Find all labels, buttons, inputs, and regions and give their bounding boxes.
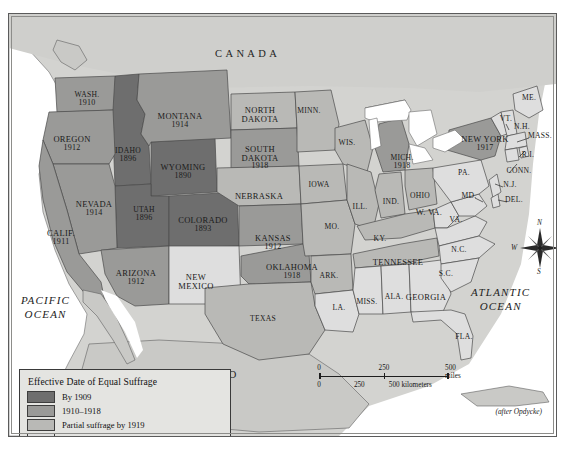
legend-item: By 1909 [27,391,223,403]
state-name: CONN. [479,167,557,175]
map-credit: (after Opdycke) [495,407,542,416]
state-name: S.C. [406,270,486,278]
state-label: KY. [340,235,420,243]
state-label: KANSAS1912 [233,234,313,251]
ocean-pacific-line2: OCEAN [25,308,67,320]
state-name: MINN. [269,107,349,115]
country-label-canada: CANADA [215,48,280,59]
state-label: ME. [489,94,557,102]
ocean-pacific-line1: PACIFIC [21,294,70,306]
scale-bar: 0250500 miles 0250500 kilometers [319,364,449,390]
state-label: COLORADO1893 [163,216,243,233]
legend-title: Effective Date of Equal Suffrage [28,376,223,387]
state-label: FLA. [424,333,504,341]
state-name: VA. [416,216,496,224]
state-name: NEBRASKA [219,192,299,201]
state-label: MASS. [500,132,557,140]
state-label: N.J. [470,181,550,189]
state-label: VA. [416,216,496,224]
state-label: WASH.1910 [47,91,127,107]
state-label: MONTANA1914 [140,112,220,129]
legend-swatch [27,405,55,417]
state-year: 1912 [233,243,313,251]
state-name: ME. [489,94,557,102]
legend-swatch [27,433,55,437]
legend-label: 1910–1918 [62,406,101,416]
state-label: MO. [292,223,372,231]
scale-tick-label: 250 [379,364,390,372]
state-label: VT. [466,115,546,123]
legend-swatch [27,419,55,431]
state-name: IOWA [279,181,359,189]
legend-label: By 1909 [62,392,91,402]
state-name: DEL. [474,196,554,204]
state-label: TENNESSEE [358,258,438,267]
scale-tick-label: 0 [317,364,321,372]
state-label: N.H. [482,123,557,131]
state-year: 1890 [143,172,223,180]
map-frame: .s{stroke:#4a4a4a;stroke-width:.7;} .d1{… [8,13,557,437]
legend-item: No woman suffrage by 1919 [27,433,223,437]
state-name: WIS. [307,139,387,147]
state-label: W. VA. [389,208,469,217]
legend-label: No woman suffrage by 1919 [62,434,160,437]
ocean-atlantic-line2: OCEAN [480,300,522,312]
state-year: 1918 [220,162,300,170]
state-name: ARK. [289,272,369,280]
state-label: S.C. [406,270,486,278]
compass-west-label: W [511,243,517,252]
compass-rose: N E S W [509,217,557,279]
scale-km-labels: 0250500 kilometers [319,381,449,390]
state-year: 1896 [88,155,168,163]
legend-rows: By 19091910–1918Partial suffrage by 1919… [27,391,223,437]
state-label: NEWMEXICO [156,273,236,290]
state-label: R.I. [488,151,557,159]
state-label: MINN. [269,107,349,115]
state-label: WYOMING1890 [143,163,223,180]
legend-item: Partial suffrage by 1919 [27,419,223,431]
state-label: CALIF.1911 [21,229,101,246]
legend-swatch [27,391,55,403]
legend-label: Partial suffrage by 1919 [62,420,145,430]
state-name: MASS. [500,132,557,140]
scale-bar-graphic [319,373,449,379]
state-name: TENNESSEE [358,258,438,267]
ocean-label-pacific: PACIFIC OCEAN [21,294,70,322]
compass-south-label: S [537,267,541,276]
suffrage-map-figure: .s{stroke:#4a4a4a;stroke-width:.7;} .d1{… [0,0,571,458]
state-label: IDAHO1896 [88,147,168,163]
scale-tick-label: 500 kilometers [389,381,432,389]
state-name: SOUTHDAKOTA [220,145,300,162]
ocean-atlantic-line1: ATLANTIC [471,286,530,298]
state-label: ARK. [289,272,369,280]
state-name: FLA. [424,333,504,341]
state-name: NEWMEXICO [156,273,236,290]
map-legend: Effective Date of Equal Suffrage By 1909… [19,369,231,437]
state-name: R.I. [488,151,557,159]
state-year: 1914 [140,121,220,129]
state-label: N.C. [419,246,499,254]
scale-tick-label: 250 [354,381,365,389]
state-label: CONN. [479,167,557,175]
state-year: 1910 [47,99,127,107]
scale-tick-label: 0 [317,381,321,389]
state-name: N.C. [419,246,499,254]
state-label: GEORGIA [386,293,466,302]
state-name: W. VA. [389,208,469,217]
state-label: MICH.1918 [362,154,442,170]
state-name: VT. [466,115,546,123]
state-name: N.H. [482,123,557,131]
state-label: WIS. [307,139,387,147]
compass-north-label: N [537,218,542,227]
state-year: 1893 [163,225,243,233]
state-name: GEORGIA [386,293,466,302]
state-name: MO. [292,223,372,231]
ocean-label-atlantic: ATLANTIC OCEAN [471,286,530,314]
state-label: IOWA [279,181,359,189]
state-name: TEXAS [223,315,303,323]
legend-item: 1910–1918 [27,405,223,417]
state-label: NEBRASKA [219,192,299,201]
state-label: SOUTHDAKOTA1918 [220,145,300,170]
state-label: DEL. [474,196,554,204]
state-name: KY. [340,235,420,243]
